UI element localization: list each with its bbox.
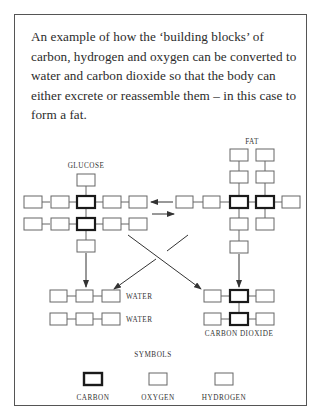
carbon-symbol: [84, 373, 102, 385]
oxygen-symbol: [149, 373, 167, 385]
reaction-arrows: [86, 202, 239, 289]
arrow-glucose-to-co2: [128, 235, 201, 289]
legend-title: SYMBOLS: [134, 351, 171, 359]
glucose-molecule: [24, 174, 147, 252]
carbon-dioxide-label: CARBON DIOXIDE: [205, 330, 274, 338]
molecule-diagram: GLUCOSE FAT WATER WATER CARBON DIOXIDE S…: [0, 0, 322, 420]
glucose-label: GLUCOSE: [68, 162, 105, 170]
water-label-1: WATER: [126, 293, 152, 301]
water-label-2: WATER: [126, 316, 152, 324]
legend-label-oxygen: OXYGEN: [141, 394, 175, 402]
legend-symbols: [84, 373, 233, 385]
legend-label-carbon: CARBON: [77, 394, 110, 402]
fat-molecule: [176, 149, 300, 253]
carbon-dioxide-molecules: [204, 290, 274, 325]
arrow-fat-to-water-segment-1: [167, 235, 188, 251]
hydrogen-symbol: [215, 373, 233, 385]
fat-label: FAT: [245, 138, 259, 146]
arrow-fat-to-water-segment-2: [114, 259, 156, 289]
legend-label-hydrogen: HYDROGEN: [202, 394, 247, 402]
water-molecules: [50, 290, 120, 325]
